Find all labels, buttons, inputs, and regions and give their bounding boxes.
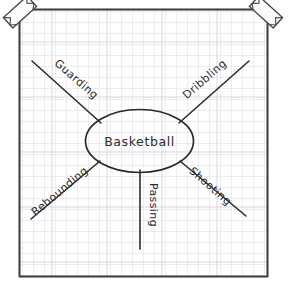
graph-paper-mind-map: Basketball Guarding Dribbling Rebounding… <box>0 0 289 286</box>
branch-label-passing: Passing <box>147 183 160 227</box>
central-label: Basketball <box>104 134 175 149</box>
mind-map-canvas: Basketball Guarding Dribbling Rebounding… <box>0 0 289 286</box>
